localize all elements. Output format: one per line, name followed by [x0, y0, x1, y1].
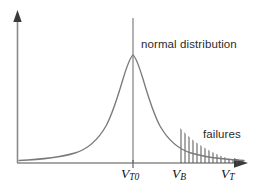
x-axis-label-vt0: VT0 — [121, 166, 139, 182]
curve-annotation-label: normal distribution — [141, 38, 237, 50]
figure-canvas — [0, 0, 255, 192]
vb-symbol: V — [172, 166, 180, 181]
failure-region-hatching — [181, 120, 241, 165]
y-axis — [13, 10, 21, 163]
vt0-subscript: T0 — [129, 172, 139, 182]
vt-subscript: T — [229, 172, 234, 182]
normal-distribution-figure: normal distribution failures VT0 VB VT — [0, 0, 255, 192]
x-axis-label-vb: VB — [172, 166, 186, 182]
vb-subscript: B — [180, 172, 186, 182]
failures-annotation-label: failures — [203, 128, 241, 140]
vt0-symbol: V — [121, 166, 129, 181]
vt-symbol: V — [221, 166, 229, 181]
up-arrow-icon — [13, 10, 21, 22]
x-axis-label-vt: VT — [221, 166, 235, 182]
distribution-curve — [19, 55, 244, 161]
